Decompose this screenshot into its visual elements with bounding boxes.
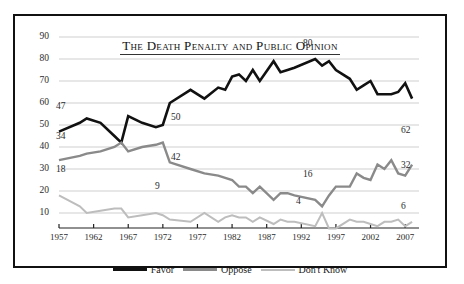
y-tick-label: 30 — [27, 163, 49, 173]
y-tick-label: 70 — [27, 75, 49, 85]
point-label: 62 — [401, 125, 411, 135]
legend-swatch — [183, 268, 217, 271]
x-tick-label: 1957 — [42, 232, 76, 242]
legend-label: Favor — [151, 264, 174, 275]
chart-legend: FavorOpposeDon't Know — [15, 264, 445, 275]
y-tick-label: 40 — [27, 141, 49, 151]
data-series-group — [59, 59, 412, 228]
series-line-favor — [59, 59, 412, 143]
x-tick-label: 1992 — [284, 232, 318, 242]
point-label: 50 — [171, 112, 181, 122]
x-tick-label: 1967 — [111, 232, 145, 242]
point-label: 32 — [401, 160, 411, 170]
point-label: 80 — [303, 38, 313, 48]
x-tick-label: 1972 — [146, 232, 180, 242]
point-label: 16 — [303, 169, 313, 179]
y-tick-label: 90 — [27, 31, 49, 41]
point-label: 4 — [296, 196, 301, 206]
point-label: 9 — [155, 181, 160, 191]
x-tick-label: 1987 — [250, 232, 284, 242]
x-tick-label: 2002 — [354, 232, 388, 242]
legend-item-don-t-know[interactable]: Don't Know — [261, 264, 348, 275]
y-tick-label: 10 — [27, 207, 49, 217]
y-tick-label: 20 — [27, 185, 49, 195]
x-tick-label: 1997 — [319, 232, 353, 242]
point-label: 34 — [56, 131, 66, 141]
legend-item-oppose[interactable]: Oppose — [183, 264, 252, 275]
legend-item-favor[interactable]: Favor — [113, 264, 174, 275]
legend-label: Don't Know — [299, 264, 348, 275]
point-label: 47 — [56, 101, 66, 111]
y-tick-label: 80 — [27, 53, 49, 63]
series-line-don-t-know — [59, 195, 412, 228]
series-line-oppose — [59, 143, 412, 207]
x-tick-label: 1982 — [215, 232, 249, 242]
chart-frame: The Death Penalty and Public Opinion 908… — [13, 14, 447, 268]
x-tick-label: 2007 — [388, 232, 422, 242]
point-label: 18 — [56, 164, 66, 174]
x-tick-label: 1962 — [77, 232, 111, 242]
point-label: 42 — [171, 152, 181, 162]
legend-label: Oppose — [221, 264, 252, 275]
chart-plot-area — [15, 16, 445, 266]
x-axis — [59, 224, 419, 228]
y-tick-label: 60 — [27, 97, 49, 107]
legend-swatch — [261, 269, 295, 271]
x-tick-label: 1977 — [180, 232, 214, 242]
y-tick-label: 50 — [27, 119, 49, 129]
point-label: 6 — [401, 201, 406, 211]
legend-swatch — [113, 268, 147, 271]
